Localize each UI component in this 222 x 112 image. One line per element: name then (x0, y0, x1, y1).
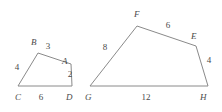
vertex-label-G: G (85, 92, 92, 102)
vertex-label-B: B (31, 37, 37, 47)
geometry-figure: C B A D 4 3 2 6 G F E H 8 6 4 12 (0, 0, 222, 112)
side-length-EH: 4 (207, 55, 212, 65)
side-length-GF: 8 (103, 42, 108, 52)
vertex-label-E: E (190, 31, 197, 41)
vertex-label-A: A (61, 56, 68, 66)
side-length-CB: 4 (15, 62, 20, 72)
vertex-label-D: D (65, 92, 73, 102)
side-length-AD: 2 (68, 69, 73, 79)
side-length-GH: 12 (142, 92, 151, 102)
shape-quadrilateral-EFGH: G F E H 8 6 4 12 (85, 9, 212, 102)
geometry-canvas: C B A D 4 3 2 6 G F E H 8 6 4 12 (0, 0, 222, 112)
vertex-label-F: F (133, 9, 140, 19)
side-length-FE: 6 (166, 20, 171, 30)
shape-quadrilateral-ABCD: C B A D 4 3 2 6 (15, 37, 73, 102)
side-length-CD: 6 (39, 92, 44, 102)
side-length-BA: 3 (46, 41, 51, 51)
vertex-label-C: C (15, 92, 22, 102)
vertex-label-H: H (199, 92, 207, 102)
